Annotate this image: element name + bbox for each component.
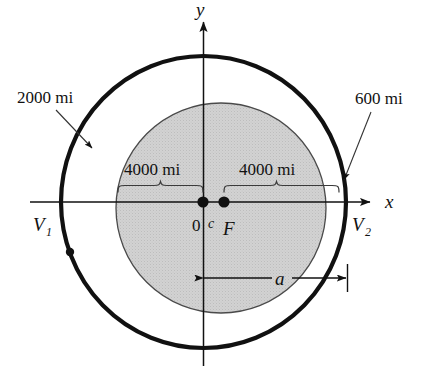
callout-label-2000mi: 2000 mi xyxy=(17,88,73,107)
vertex-left-subscript: 1 xyxy=(46,225,52,239)
earth-circle xyxy=(116,103,326,313)
vertex-right-label: V xyxy=(352,214,366,235)
callout-leader-600 xyxy=(344,112,371,180)
x-axis-label: x xyxy=(384,191,394,212)
figure-canvas: 2000 mi 600 mi 4000 mi 4000 mi x y 0 c F… xyxy=(0,0,431,381)
y-axis-label: y xyxy=(194,0,205,20)
origin-label: 0 xyxy=(192,216,201,235)
dimension-label-a: a xyxy=(275,268,285,289)
orbit-diagram-svg: 2000 mi 600 mi 4000 mi 4000 mi x y 0 c F… xyxy=(0,0,431,381)
callout-label-600mi: 600 mi xyxy=(355,89,403,108)
vertex-right-subscript: 2 xyxy=(365,225,371,239)
focus-label: F xyxy=(222,218,235,239)
vertex-left-label: V xyxy=(33,214,47,235)
brace-label-left-4000mi: 4000 mi xyxy=(124,160,180,179)
c-label: c xyxy=(208,216,215,231)
center-point xyxy=(197,196,208,207)
brace-label-right-4000mi: 4000 mi xyxy=(239,160,295,179)
focus-point xyxy=(218,196,229,207)
satellite-point xyxy=(66,248,74,256)
